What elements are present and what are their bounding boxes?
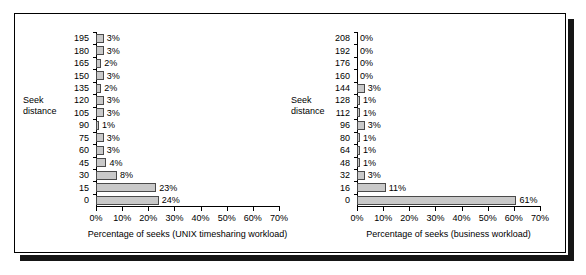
x-axis-title: Percentage of seeks (UNIX timesharing wo… xyxy=(66,229,309,239)
bar xyxy=(96,133,104,142)
y-axis-tick xyxy=(354,94,357,95)
x-axis-tick xyxy=(435,207,436,211)
y-axis-tick-label: 15 xyxy=(49,183,89,193)
y-axis-tick-label: 80 xyxy=(310,133,350,143)
x-axis-tick xyxy=(357,207,358,211)
y-axis-tick-label: 165 xyxy=(49,58,89,68)
bar-value-label: 4% xyxy=(109,159,122,168)
y-axis-title: Seekdistance xyxy=(23,95,57,117)
bar-chart-business-workload: 2080%1920%1760%1600%1443%1281%1121%963%8… xyxy=(291,14,567,254)
x-axis-tick xyxy=(174,207,175,211)
x-axis-tick-label: 70% xyxy=(525,214,555,223)
y-axis-tick-label: 195 xyxy=(49,33,89,43)
y-axis-tick xyxy=(93,44,96,45)
y-axis-tick-label: 0 xyxy=(49,195,89,205)
x-axis-tick xyxy=(227,207,228,211)
y-axis-tick-label: 160 xyxy=(310,71,350,81)
bar-value-label: 3% xyxy=(107,96,120,105)
x-axis-title: Percentage of seeks (business workload) xyxy=(327,229,570,239)
x-axis-tick xyxy=(253,207,254,211)
bar-value-label: 3% xyxy=(107,72,120,81)
x-axis-tick xyxy=(462,207,463,211)
y-axis-tick-label: 45 xyxy=(49,158,89,168)
bar-value-label: 11% xyxy=(389,184,406,193)
bar xyxy=(96,96,104,105)
x-axis-tick xyxy=(279,207,280,211)
figure-shadow-right xyxy=(568,19,574,259)
y-axis-tick xyxy=(93,69,96,70)
y-axis-tick-label: 144 xyxy=(310,83,350,93)
y-axis-tick-label: 16 xyxy=(310,183,350,193)
y-axis-tick-label: 180 xyxy=(49,46,89,56)
bar-value-label: 3% xyxy=(107,109,120,118)
x-axis-tick xyxy=(122,207,123,211)
bar xyxy=(96,108,104,117)
y-axis-tick xyxy=(354,119,357,120)
bar xyxy=(357,133,360,142)
y-axis-tick xyxy=(354,44,357,45)
y-axis-tick-label: 192 xyxy=(310,46,350,56)
y-axis-tick-label: 32 xyxy=(310,170,350,180)
x-axis-tick xyxy=(514,207,515,211)
bar xyxy=(357,183,386,192)
y-axis-tick xyxy=(354,69,357,70)
bar xyxy=(357,84,365,93)
bar-value-label: 1% xyxy=(363,146,376,155)
bar-value-label: 2% xyxy=(104,59,117,68)
y-axis-tick-label: 75 xyxy=(49,133,89,143)
bar-value-label: 3% xyxy=(368,171,381,180)
y-axis-tick xyxy=(93,94,96,95)
y-axis-tick-label: 150 xyxy=(49,71,89,81)
bar-value-label: 3% xyxy=(107,34,120,43)
y-axis-tick-label: 90 xyxy=(49,120,89,130)
bar-value-label: 0% xyxy=(360,47,373,56)
bar xyxy=(357,96,360,105)
y-axis-tick-label: 48 xyxy=(310,158,350,168)
y-axis-tick xyxy=(354,32,357,33)
bar-value-label: 1% xyxy=(102,121,115,130)
y-axis-title: Seekdistance xyxy=(291,95,325,117)
bar-value-label: 1% xyxy=(363,109,376,118)
y-axis-tick-label: 60 xyxy=(49,145,89,155)
bar xyxy=(96,171,117,180)
y-axis-tick-label: 96 xyxy=(310,120,350,130)
y-axis-title-line-1: Seek xyxy=(23,95,57,106)
x-axis-tick xyxy=(488,207,489,211)
bar-value-label: 1% xyxy=(363,96,376,105)
x-axis-tick xyxy=(148,207,149,211)
bar xyxy=(96,84,101,93)
bar-value-label: 3% xyxy=(368,121,381,130)
bar-value-label: 24% xyxy=(162,196,180,205)
y-axis-tick-label: 135 xyxy=(49,83,89,93)
y-axis-tick xyxy=(93,181,96,182)
bar xyxy=(357,158,360,167)
x-axis-tick xyxy=(409,207,410,211)
y-axis-title-line-1: Seek xyxy=(291,95,325,106)
bar xyxy=(96,183,156,192)
figure-shadow-bottom xyxy=(20,255,574,261)
bar-value-label: 3% xyxy=(107,47,120,56)
bar-value-label: 3% xyxy=(107,134,120,143)
y-axis-tick xyxy=(354,181,357,182)
bar xyxy=(96,196,159,205)
y-axis-tick-label: 176 xyxy=(310,58,350,68)
bar-chart-unix-workload: 1953%1803%1652%1503%1352%1203%1053%901%7… xyxy=(15,14,291,254)
y-axis-tick-label: 0 xyxy=(310,195,350,205)
y-axis-title-line-2: distance xyxy=(23,106,57,117)
y-axis-tick-label: 64 xyxy=(310,145,350,155)
bar xyxy=(96,158,106,167)
bar xyxy=(357,196,516,205)
bar xyxy=(357,146,360,155)
x-axis-tick xyxy=(383,207,384,211)
y-axis-tick xyxy=(354,57,357,58)
bar xyxy=(357,108,360,117)
bar xyxy=(357,171,365,180)
y-axis-line xyxy=(357,32,358,206)
bar xyxy=(96,71,104,80)
bar xyxy=(96,59,101,68)
bar-value-label: 8% xyxy=(120,171,133,180)
bar-value-label: 1% xyxy=(363,134,376,143)
x-axis-tick xyxy=(540,207,541,211)
y-axis-tick-label: 208 xyxy=(310,33,350,43)
figure-frame: 1953%1803%1652%1503%1352%1203%1053%901%7… xyxy=(14,13,566,253)
